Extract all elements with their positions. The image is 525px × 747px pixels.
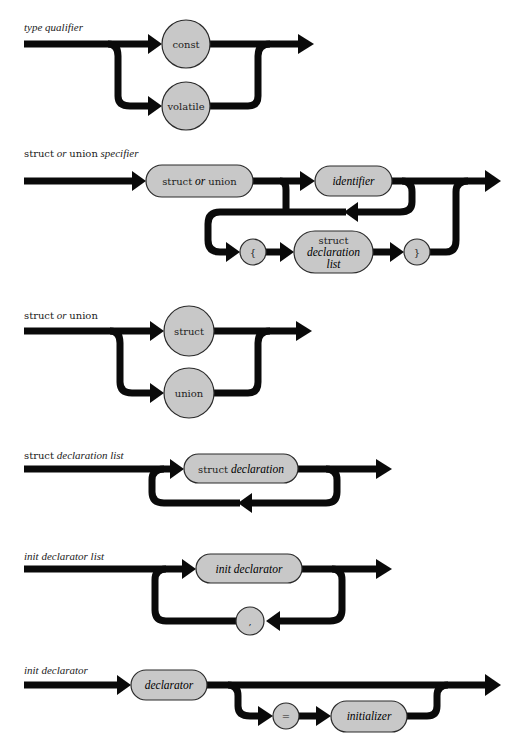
track-line: [228, 685, 260, 716]
diagram-title: init declarator list: [24, 550, 105, 562]
track-line: [108, 44, 150, 106]
diagram-title: type qualifier: [24, 21, 84, 33]
diagram-title: struct or union: [24, 309, 98, 321]
track-line: [280, 181, 286, 212]
node-label: identifier: [332, 175, 375, 188]
arrow-icon: [485, 674, 501, 696]
arrow-icon: [148, 96, 162, 116]
arrow-icon: [280, 242, 294, 262]
node-label: struct declaration: [198, 463, 284, 475]
track-line: [214, 331, 270, 393]
diagram-title: struct or union specifier: [24, 147, 139, 159]
diagram-struct-or-union-specifier: struct or union specifier struct or unio…: [24, 147, 501, 273]
arrow-icon: [150, 321, 164, 341]
arrow-icon: [376, 559, 392, 579]
arrow-icon: [300, 171, 315, 191]
track-line: [407, 685, 448, 716]
node-label: declarator: [145, 679, 194, 691]
arrow-icon: [390, 242, 404, 262]
track-line: [110, 331, 152, 393]
node-label: {: [250, 247, 256, 258]
node-label: =: [282, 711, 290, 722]
node-label: initializer: [347, 710, 392, 722]
arrow-icon: [182, 559, 196, 579]
arrow-icon: [266, 611, 280, 631]
diagram-title: struct declaration list: [24, 449, 125, 461]
track-line: [210, 44, 270, 106]
arrow-icon: [117, 675, 131, 695]
node-label: volatile: [166, 101, 204, 112]
syntax-diagrams: type qualifier const volatile struct or …: [0, 0, 525, 747]
node-label: }: [414, 247, 420, 258]
arrow-icon: [170, 459, 184, 479]
diagram-type-qualifier: type qualifier const volatile: [24, 20, 314, 130]
arrow-icon: [258, 706, 273, 726]
track-line: [430, 181, 468, 252]
node-label: declaration: [307, 246, 360, 258]
arrow-icon: [148, 34, 162, 54]
diagram-struct-declaration-list: struct declaration list struct declarati…: [24, 449, 392, 513]
node-label: init declarator: [216, 563, 283, 575]
arrow-icon: [298, 34, 314, 54]
node-label: struct or union: [162, 175, 237, 187]
node-label: struct: [319, 235, 349, 246]
diagram-init-declarator: init declarator declarator = initializer: [24, 664, 501, 732]
arrow-icon: [296, 321, 312, 341]
arrow-icon: [344, 202, 358, 222]
diagram-title: init declarator: [24, 664, 89, 676]
node-label: union: [175, 388, 204, 399]
arrow-icon: [316, 706, 331, 726]
diagram-init-declarator-list: init declarator list init declarator ,: [24, 550, 392, 635]
node-label: struct: [174, 326, 204, 337]
arrow-icon: [238, 493, 252, 513]
arrow-icon: [485, 170, 501, 192]
node-label: list: [326, 258, 341, 270]
node-label: ,: [248, 616, 251, 627]
arrow-icon: [150, 383, 164, 403]
arrow-icon: [226, 242, 240, 262]
node-label: const: [172, 39, 199, 50]
diagram-struct-or-union: struct or union struct union: [24, 306, 312, 418]
arrow-icon: [376, 459, 392, 479]
arrow-icon: [132, 171, 146, 191]
